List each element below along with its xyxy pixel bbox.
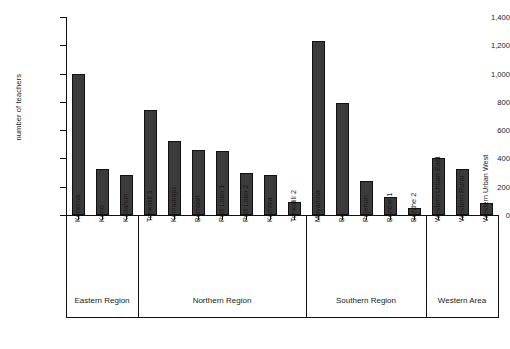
y-axis-tick [60,17,66,18]
group-label: Eastern Region [66,296,138,305]
y-axis-tick-label: 1,000 [456,69,510,78]
y-axis-tick [60,215,66,216]
bar-chart: number of teachers 02004006008001,0001,2… [0,0,510,349]
y-axis-tick [60,74,66,75]
y-axis-tick [60,158,66,159]
category-label: Port Loko 2 [241,185,250,222]
group-label: Western Area [426,296,498,305]
category-label: Tonkolili 1 [145,190,154,222]
y-axis-tick-label: 600 [456,126,510,135]
bar [336,103,349,215]
category-label: Port Loko 1 [217,185,226,222]
category-label: Tonkolili 2 [289,190,298,222]
y-axis-tick [60,130,66,131]
y-axis-tick-label: 800 [456,97,510,106]
y-axis-tick [60,102,66,103]
y-axis-tick-label: 1,400 [456,13,510,22]
y-axis-tick [60,187,66,188]
bar [72,74,85,215]
y-axis-line [66,17,67,216]
category-label: Koinadugu [169,187,178,222]
y-axis-title-text: number of teachers [14,74,23,140]
category-label: Moyamba [313,190,322,222]
category-label: Western Rural [457,176,466,222]
category-label: Bonthe 1 [385,193,394,222]
y-axis-tick [60,45,66,46]
category-label: Bonthe 2 [409,193,418,222]
category-label: Western Urban East [433,157,442,222]
category-label: Kailahun [121,194,130,222]
group-label: Southern Region [306,296,426,305]
category-label: Kono [97,205,106,222]
category-label: Western Urban West [481,155,490,222]
category-label: Kenema [73,195,82,222]
y-axis-title: number of teachers [6,0,30,215]
category-label: Kambia [265,197,274,222]
group-label: Northern Region [138,296,306,305]
category-label: Pujehun [361,195,370,222]
y-axis-tick-label: 1,200 [456,41,510,50]
bar [312,41,325,215]
category-label: Bo [337,213,346,222]
category-label: Bombali [193,196,202,222]
